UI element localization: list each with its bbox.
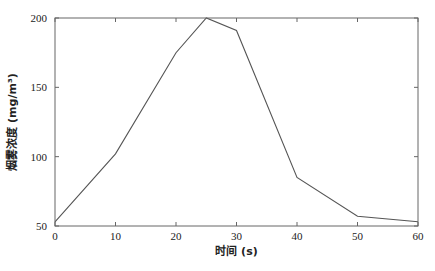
x-tick-label: 60 [413,230,425,242]
y-tick-label: 100 [31,151,48,163]
y-tick-label: 50 [36,220,48,232]
x-tick-label: 20 [171,230,183,242]
x-tick-label: 30 [231,230,243,242]
plot-frame [55,18,418,226]
x-tick-label: 0 [52,230,58,242]
x-axis-label: 时间 (s) [215,244,257,258]
smoke-concentration-line [55,18,418,222]
x-tick-label: 10 [110,230,122,242]
tick-labels: 010203040506050100150200 [31,12,425,242]
line-chart: 010203040506050100150200 时间 (s) 烟雾浓度 (mg… [0,0,435,271]
y-axis-label: 烟雾浓度 (mg/m³) [5,73,19,171]
y-tick-label: 150 [31,81,48,93]
x-tick-label: 50 [352,230,364,242]
x-tick-label: 40 [292,230,304,242]
axis-ticks [55,18,418,226]
y-tick-label: 200 [31,12,48,24]
